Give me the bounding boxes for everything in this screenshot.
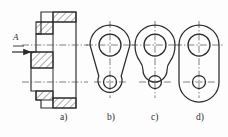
drawing-canvas: A a) b) c) d) [0,0,228,137]
hatch-flange-bottom [53,98,76,108]
view-label-b: b) [107,112,115,122]
section-view-a [31,12,76,108]
hatch-flange-top [53,12,76,22]
hatch-hub-mid [31,52,53,68]
view-label-c: c) [151,112,158,122]
section-arrow-group [12,46,31,52]
hatch-boss-lower [36,91,53,100]
section-letter-a: A [13,32,19,42]
front-view-c [135,25,175,89]
hatch-boss-upper [36,22,53,34]
view-label-d: d) [196,112,204,122]
view-label-a: a) [60,112,67,122]
